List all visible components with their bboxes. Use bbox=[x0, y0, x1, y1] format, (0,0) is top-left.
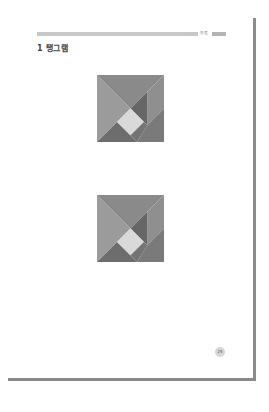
page-number-badge: 25 bbox=[215, 347, 225, 357]
tangram-square-icon bbox=[97, 75, 164, 142]
page-edge-right bbox=[253, 18, 256, 381]
tangram-square-icon bbox=[97, 195, 164, 262]
header-tab-marker bbox=[212, 32, 226, 36]
header-rule bbox=[37, 32, 198, 36]
tangram-figure-2 bbox=[97, 195, 164, 262]
tangram-figure-1 bbox=[97, 75, 164, 142]
page-title: 1 탱그램 bbox=[37, 44, 68, 54]
page-edge-bottom bbox=[8, 378, 256, 381]
section-label: 부록 bbox=[200, 30, 208, 37]
